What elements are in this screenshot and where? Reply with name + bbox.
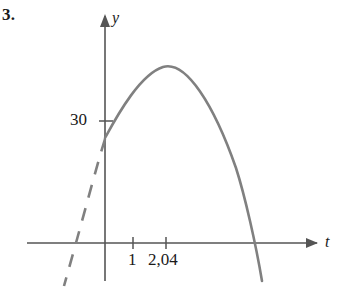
t-axis-arrowhead: [306, 238, 318, 248]
figure-container: 3. y t 30 1 2,04: [0, 0, 342, 292]
x-tick-label-2-04: 2,04: [148, 251, 178, 268]
t-axis-group: [27, 238, 318, 248]
y-tick-label-30: 30: [70, 111, 87, 128]
y-axis-label: y: [112, 10, 119, 26]
t-axis-label: t: [325, 234, 329, 250]
x-tick-label-1: 1: [128, 251, 137, 268]
parabola-solid-curve: [105, 66, 262, 281]
parabola-dashed-extension: [64, 139, 105, 286]
problem-number-label: 3.: [2, 6, 15, 23]
tick-marks-group: [99, 121, 166, 249]
graph-canvas: [0, 0, 342, 292]
y-axis-arrowhead: [100, 14, 110, 27]
